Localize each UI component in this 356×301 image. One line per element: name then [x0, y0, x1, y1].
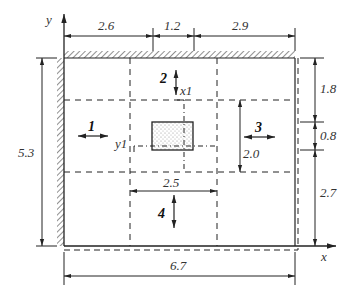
region-1-label: 1	[88, 119, 95, 134]
top-wall-hatch	[64, 51, 295, 58]
inclusion-rectangle	[152, 122, 193, 150]
dim-top-3: 2.9	[232, 18, 249, 33]
dim-top-2: 1.2	[164, 18, 181, 33]
dim-left-total: 5.3	[18, 145, 35, 160]
region-2-label: 2	[159, 71, 167, 86]
region-4-label: 4	[157, 206, 165, 221]
dim-right-1: 1.8	[320, 81, 337, 96]
dim-inner-height: 2.0	[243, 146, 260, 161]
diagram-canvas: y x x1 y1 2 1 3 4 2.0 2.5 2.6 1.2 2.9 1.…	[0, 0, 356, 301]
y-axis-label: y	[44, 12, 52, 27]
x-axis-label: x	[320, 249, 327, 264]
dim-right-3: 2.7	[320, 185, 337, 200]
dim-bottom-total: 6.7	[170, 258, 187, 273]
dim-top-1: 2.6	[98, 18, 115, 33]
dim-inner-width: 2.5	[163, 175, 180, 190]
region-3-label: 3	[254, 120, 262, 135]
y1-label: y1	[113, 136, 127, 151]
x1-label: x1	[179, 83, 192, 98]
dim-right-2: 0.8	[320, 128, 337, 143]
left-wall-hatch	[57, 58, 64, 246]
